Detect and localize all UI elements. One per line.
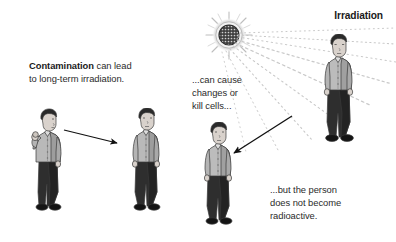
irradiation-title: Irradiation: [334, 10, 383, 21]
arrow-contamination-icon: [64, 130, 117, 143]
contamination-caption: Contamination can lead to long-term irra…: [29, 59, 179, 85]
contaminated-person-standing: [126, 108, 168, 217]
cause-changes-caption: ...can cause changes or kill cells...: [192, 73, 262, 113]
contamination-keyword: Contamination: [29, 60, 94, 71]
source-person-standing: [317, 34, 361, 148]
not-radioactive-caption: ...but the person does not become radioa…: [270, 183, 380, 223]
radiation-source-icon: [203, 10, 255, 62]
irradiation-contamination-infographic: Irradiation Contamination can lead to lo…: [0, 0, 396, 242]
arrow-irradiation-icon: [234, 116, 292, 153]
irradiated-person-standing: [198, 122, 240, 231]
contaminated-person-holding-object: [26, 108, 70, 217]
